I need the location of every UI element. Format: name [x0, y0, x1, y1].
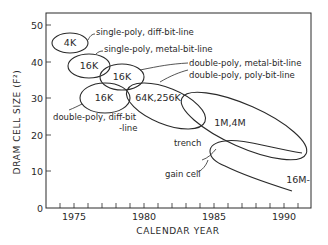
note-gain-cell: gain cell	[165, 169, 201, 179]
y-tick-label: 50	[31, 20, 43, 31]
y-tick-label: 20	[31, 130, 43, 141]
y-tick-label: 0	[37, 203, 43, 214]
y-tick-label: 10	[31, 166, 43, 177]
dram-cell-size-chart: 50 40 30 20 10 0 1975 1980 1985 1990 CAL…	[0, 0, 328, 245]
x-tick-label: 1990	[272, 211, 296, 222]
x-tick-label: 1985	[202, 211, 226, 222]
x-axis-title: CALENDAR YEAR	[136, 226, 219, 236]
region-label-16k-a: 16K	[80, 60, 99, 71]
region-label-16k-b: 16K	[113, 71, 132, 82]
x-tick-label: 1975	[62, 211, 86, 222]
note-single-poly-diff: single-poly, diff-bit-line	[96, 27, 194, 37]
y-axis-title: DRAM CELL SIZE (F²)	[12, 70, 22, 175]
note-trench: trench	[174, 138, 201, 148]
region-label-16m: 16M-	[286, 174, 310, 185]
region-label-16k-c: 16K	[95, 92, 114, 103]
region-label-1m: 1M,4M	[214, 117, 246, 128]
y-tick-label: 40	[31, 57, 43, 68]
x-tick-label: 1980	[132, 211, 156, 222]
note-double-poly-diff-2: -line	[119, 123, 137, 133]
note-double-poly-metal: double-poly, metal-bit-line	[189, 58, 301, 68]
note-single-poly-metal: single-poly, metal-bit-line	[104, 44, 213, 54]
note-double-poly-poly: double-poly, poly-bit-line	[189, 70, 295, 80]
y-axis: 50 40 30 20 10 0	[31, 20, 51, 214]
y-tick-label: 30	[31, 93, 43, 104]
note-double-poly-diff-1: double-poly, diff-bit	[53, 112, 137, 122]
region-label-64k: 64K,256K	[135, 92, 181, 103]
leader-lines	[69, 34, 216, 172]
x-axis	[60, 203, 298, 208]
region-label-4k: 4K	[64, 37, 77, 48]
